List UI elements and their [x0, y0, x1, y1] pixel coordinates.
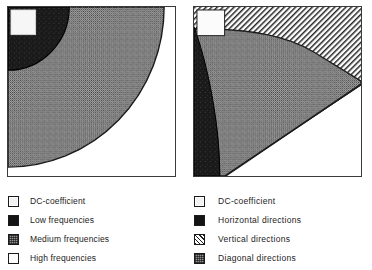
swatch-vertical-directions-icon: [194, 234, 205, 245]
legend-label-dc-coefficient: DC-coefficient: [30, 196, 85, 207]
legend-item-vertical-directions: Vertical directions: [194, 230, 369, 248]
swatch-horizontal-directions-icon: [194, 215, 205, 226]
dct-coefficient-partition-figure: DC-coefficient Low frequencies Medium fr…: [0, 0, 372, 270]
directional-bands-plot-frame: [193, 6, 362, 177]
swatch-medium-frequencies-icon: [8, 234, 19, 245]
legend-item-low-frequencies: Low frequencies: [8, 211, 183, 229]
frequency-bands-diagram: [7, 6, 176, 177]
legend-label-medium-frequencies: Medium frequencies: [30, 234, 109, 245]
legend-item-diagonal-directions: Diagonal directions: [194, 249, 369, 267]
legend-label-high-frequencies: High frequencies: [30, 253, 96, 264]
legend-item-horizontal-directions: Horizontal directions: [194, 211, 369, 229]
swatch-dc-coefficient-icon: [8, 196, 19, 207]
legend-label-diagonal-directions: Diagonal directions: [218, 253, 296, 264]
legend-item-dc-coefficient-directional: DC-coefficient: [194, 192, 369, 210]
legend-label-horizontal-directions: Horizontal directions: [218, 215, 301, 226]
swatch-diagonal-directions-icon: [194, 253, 205, 264]
directional-bands-legend: DC-coefficient Horizontal directions Ver…: [194, 192, 369, 268]
swatch-low-frequencies-icon: [8, 215, 19, 226]
legend-item-dc-coefficient: DC-coefficient: [8, 192, 183, 210]
frequency-bands-plot-frame: [7, 6, 176, 177]
swatch-dc-coefficient-icon: [194, 196, 205, 207]
swatch-high-frequencies-icon: [8, 253, 19, 264]
directional-bands-diagram: [193, 6, 362, 177]
legend-label-dc-coefficient: DC-coefficient: [218, 196, 275, 207]
legend-label-low-frequencies: Low frequencies: [30, 215, 94, 226]
legend-item-high-frequencies: High frequencies: [8, 249, 183, 267]
legend-item-medium-frequencies: Medium frequencies: [8, 230, 183, 248]
legend-label-vertical-directions: Vertical directions: [218, 234, 290, 245]
frequency-bands-legend: DC-coefficient Low frequencies Medium fr…: [8, 192, 183, 268]
